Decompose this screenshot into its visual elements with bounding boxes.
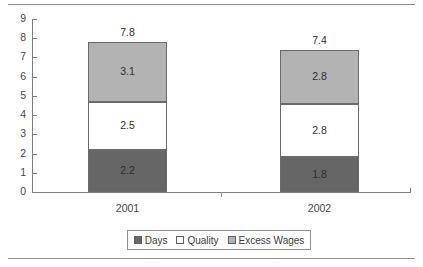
plot-area: 0123456789 20012002 2.22.53.17.81.82.82.…	[0, 0, 423, 215]
bar-segment[interactable]: 1.8	[280, 157, 359, 192]
bar-total-label: 7.8	[88, 27, 167, 38]
y-axis-tick	[32, 154, 37, 155]
y-axis-tick	[32, 115, 37, 116]
stacked-bar[interactable]: 1.82.82.8	[280, 50, 359, 192]
bar-segment[interactable]: 2.2	[88, 150, 167, 192]
x-axis-mid-tick	[221, 192, 222, 197]
legend-item-label: Days	[145, 235, 168, 246]
legend-item-label: Quality	[187, 235, 218, 246]
x-axis-endcap	[410, 188, 411, 193]
y-axis-tick-label: 3	[10, 128, 26, 139]
y-axis-tick-label: 4	[10, 109, 26, 120]
legend-swatch-icon	[176, 236, 184, 244]
legend-item-label: Excess Wages	[239, 235, 305, 246]
bar-segment[interactable]: 3.1	[88, 42, 167, 102]
y-axis-tick	[32, 77, 37, 78]
chart-figure: 0123456789 20012002 2.22.53.17.81.82.82.…	[0, 0, 423, 267]
chart-legend: DaysQualityExcess Wages	[127, 230, 311, 250]
y-axis-tick	[32, 96, 37, 97]
y-axis-tick-label: 5	[10, 90, 26, 101]
y-axis-tick	[32, 19, 37, 20]
y-axis-tick-label: 2	[10, 148, 26, 159]
bottom-rule	[8, 258, 415, 259]
bar-segment-value-label: 1.8	[312, 169, 327, 180]
bar-segment[interactable]: 2.8	[280, 104, 359, 158]
legend-item[interactable]: Days	[134, 235, 168, 246]
bar-segment-value-label: 2.2	[120, 165, 135, 176]
legend-item[interactable]: Excess Wages	[228, 235, 305, 246]
x-axis-tick-label: 2001	[98, 202, 158, 214]
y-axis-tick	[32, 134, 37, 135]
y-axis-tick	[32, 38, 37, 39]
y-axis-line	[32, 19, 33, 193]
bar-segment-value-label: 2.5	[120, 120, 135, 131]
y-axis-tick-label: 8	[10, 32, 26, 43]
y-axis-tick-label: 9	[10, 13, 26, 24]
bar-segment-value-label: 2.8	[312, 125, 327, 136]
y-axis-tick-label: 7	[10, 51, 26, 62]
y-axis-tick-label: 6	[10, 71, 26, 82]
bar-segment[interactable]: 2.8	[280, 50, 359, 104]
y-axis-tick	[32, 57, 37, 58]
y-axis-tick	[32, 173, 37, 174]
legend-item[interactable]: Quality	[176, 235, 218, 246]
bar-segment-value-label: 2.8	[312, 71, 327, 82]
legend-swatch-icon	[134, 236, 142, 244]
legend-swatch-icon	[228, 236, 236, 244]
y-axis-tick-label: 1	[10, 167, 26, 178]
bar-segment-value-label: 3.1	[120, 66, 135, 77]
stacked-bar[interactable]: 2.22.53.1	[88, 42, 167, 192]
bar-segment[interactable]: 2.5	[88, 102, 167, 150]
bar-total-label: 7.4	[280, 35, 359, 46]
x-axis-tick-label: 2002	[290, 202, 350, 214]
y-axis-tick-label: 0	[10, 186, 26, 197]
y-axis-tick	[32, 192, 37, 193]
